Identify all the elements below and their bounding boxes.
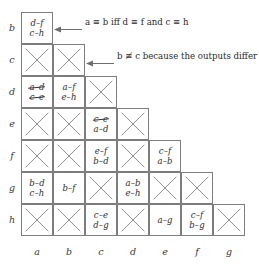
state-pair: a–b	[157, 156, 172, 166]
cross-out-icon	[54, 141, 84, 171]
cross-out-icon	[118, 109, 148, 139]
cross-out-icon	[118, 141, 148, 171]
state-pair: b–f	[62, 183, 75, 193]
state-pair: c–h	[30, 28, 45, 38]
column-label-d: d	[117, 247, 149, 257]
row-label-b: b	[5, 23, 19, 33]
state-pair: a–b	[125, 178, 140, 188]
cell-e-c[interactable]: c–ea–d	[85, 108, 117, 140]
column-label-c: c	[85, 247, 117, 257]
cell-f-c[interactable]: e–fb–d	[85, 140, 117, 172]
cell-e-d[interactable]	[117, 108, 149, 140]
cell-f-e[interactable]: c–fa–b	[149, 140, 181, 172]
state-pair: c–f	[191, 210, 203, 220]
cell-f-d[interactable]	[117, 140, 149, 172]
cell-f-b[interactable]	[53, 140, 85, 172]
cross-out-icon	[54, 205, 84, 235]
row-label-f: f	[5, 151, 19, 161]
state-pair: b–d	[93, 156, 108, 166]
state-pair: e–h	[61, 92, 76, 102]
state-pair: c–e	[94, 114, 108, 124]
state-pair: e–h	[125, 188, 140, 198]
row-label-h: h	[5, 215, 19, 225]
annotation-arrow-equivalence	[54, 19, 82, 28]
equivalence-table-figure: bcdefghabcdefgd–fc–ha–dc–ea–fe–hc–ea–de–…	[0, 0, 259, 264]
cell-h-g[interactable]	[213, 204, 245, 236]
cell-d-a[interactable]: a–dc–e	[21, 76, 53, 108]
cell-g-e[interactable]	[149, 172, 181, 204]
row-label-e: e	[5, 119, 19, 129]
state-pair: c–h	[30, 188, 45, 198]
row-label-d: d	[5, 87, 19, 97]
cross-out-icon	[86, 77, 116, 107]
state-pair: b–g	[189, 220, 204, 230]
row-label-g: g	[5, 183, 19, 193]
cell-h-d[interactable]	[117, 204, 149, 236]
column-label-e: e	[149, 247, 181, 257]
cross-out-icon	[118, 205, 148, 235]
cross-out-icon	[22, 205, 52, 235]
state-pair: a–f	[63, 82, 76, 92]
annotation-inequivalence: b ≢ c because the outputs differ	[117, 51, 257, 62]
cell-g-a[interactable]: b–dc–h	[21, 172, 53, 204]
cell-g-b[interactable]: b–f	[53, 172, 85, 204]
state-pair: d–g	[93, 220, 108, 230]
cross-out-icon	[22, 109, 52, 139]
column-label-b: b	[53, 247, 85, 257]
state-pair: e–f	[95, 146, 108, 156]
state-pair: d–f	[30, 18, 43, 28]
cell-b-a[interactable]: d–fc–h	[21, 12, 53, 44]
column-label-a: a	[21, 247, 53, 257]
state-pair: a–d	[93, 124, 108, 134]
cell-h-b[interactable]	[53, 204, 85, 236]
cross-out-icon	[214, 205, 244, 235]
state-pair: b–d	[29, 178, 44, 188]
cell-h-c[interactable]: c–ed–g	[85, 204, 117, 236]
cell-e-b[interactable]	[53, 108, 85, 140]
column-label-f: f	[181, 247, 213, 257]
cross-out-icon	[54, 45, 84, 75]
cross-out-icon	[86, 173, 116, 203]
annotation-equivalence: a ≡ b iff d ≡ f and c ≡ h	[85, 17, 189, 28]
state-pair: c–e	[30, 92, 44, 102]
cross-out-icon	[22, 45, 52, 75]
cell-e-a[interactable]	[21, 108, 53, 140]
row-label-c: c	[5, 55, 19, 65]
cell-h-a[interactable]	[21, 204, 53, 236]
cell-h-e[interactable]: a–g	[149, 204, 181, 236]
cell-g-d[interactable]: a–be–h	[117, 172, 149, 204]
cell-c-a[interactable]	[21, 44, 53, 76]
cell-d-c[interactable]	[85, 76, 117, 108]
cross-out-icon	[22, 141, 52, 171]
cross-out-icon	[54, 109, 84, 139]
annotation-arrow-inequivalence	[86, 53, 114, 62]
state-pair: a–d	[29, 82, 44, 92]
cross-out-icon	[150, 173, 180, 203]
cell-d-b[interactable]: a–fe–h	[53, 76, 85, 108]
column-label-g: g	[213, 247, 245, 257]
state-pair: a–g	[157, 215, 172, 225]
cell-g-f[interactable]	[181, 172, 213, 204]
cell-f-a[interactable]	[21, 140, 53, 172]
cell-g-c[interactable]	[85, 172, 117, 204]
cross-out-icon	[182, 173, 212, 203]
state-pair: c–f	[159, 146, 171, 156]
cell-h-f[interactable]: c–fb–g	[181, 204, 213, 236]
state-pair: c–e	[94, 210, 108, 220]
cell-c-b[interactable]	[53, 44, 85, 76]
